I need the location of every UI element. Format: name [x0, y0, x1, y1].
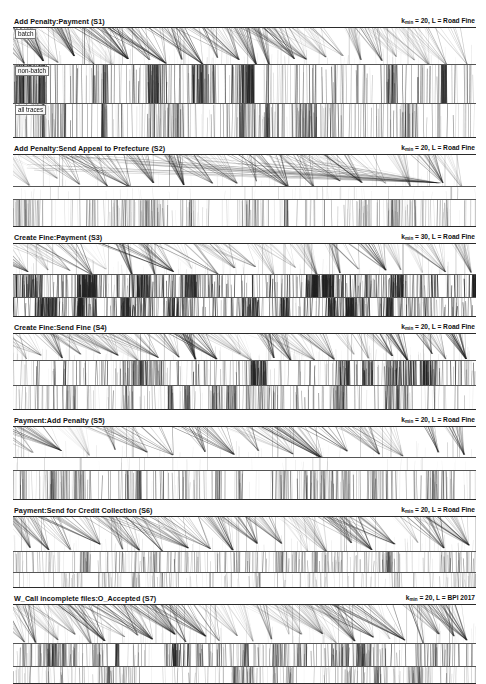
- annotation-subscript: min: [405, 419, 413, 424]
- panel-header: Add Penalty:Send Appeal to Prefecture (S…: [13, 141, 476, 155]
- band-batch: [13, 334, 476, 360]
- panel-annotation: kmin = 20, L = Road Fine: [401, 322, 475, 332]
- annotation-value: = 20, L = Road Fine: [413, 416, 475, 423]
- band-all-traces: [13, 297, 476, 316]
- panel-s6: Payment:Send for Credit Collection (S6)k…: [13, 503, 476, 588]
- band-label: all traces: [15, 105, 46, 115]
- band-group: [13, 155, 476, 227]
- band-plot-canvas: [13, 275, 476, 297]
- panel-s4: Create Fine:Send Fine (S4)kmin = 20, L =…: [13, 320, 476, 410]
- band-plot-canvas: [13, 200, 476, 226]
- band-non-batch: [13, 274, 476, 297]
- band-plot-canvas: [13, 187, 476, 199]
- panel-stack: Add Penalty:Payment (S1)kmin = 20, L = R…: [13, 14, 476, 684]
- band-plot-canvas: [13, 471, 476, 499]
- band-plot-canvas: [13, 244, 476, 274]
- panel-annotation: kmin = 20, L = Road Fine: [401, 16, 475, 26]
- annotation-value: = 30, L = Road Fine: [413, 233, 475, 240]
- panel-title: Payment:Add Penalty (S5): [14, 416, 105, 425]
- panel-header: Add Penalty:Payment (S1)kmin = 20, L = R…: [13, 14, 476, 28]
- band-group: [13, 244, 476, 317]
- band-plot-canvas: [13, 517, 476, 551]
- band-batch: [13, 427, 476, 457]
- band-all-traces: [13, 199, 476, 226]
- band-plot-canvas: [13, 361, 476, 385]
- band-non-batch: non-batch: [13, 64, 476, 103]
- band-plot-canvas: [13, 552, 476, 572]
- band-all-traces: [13, 385, 476, 409]
- panel-header: Payment:Add Penalty (S5)kmin = 20, L = R…: [13, 413, 476, 427]
- band-batch: [13, 244, 476, 274]
- panel-header: Create Fine:Send Fine (S4)kmin = 20, L =…: [13, 320, 476, 334]
- panel-annotation: kmin = 20, L = Road Fine: [401, 415, 475, 425]
- band-all-traces: [13, 572, 476, 587]
- band-group: [13, 605, 476, 684]
- band-non-batch: [13, 457, 476, 470]
- annotation-value: = 20, L = Road Fine: [413, 144, 475, 151]
- panel-annotation: kmin = 30, L = Road Fine: [401, 232, 475, 242]
- panel-s3: Create Fine:Payment (S3)kmin = 30, L = R…: [13, 230, 476, 317]
- band-plot-canvas: [13, 65, 476, 103]
- band-plot-canvas: [13, 667, 476, 683]
- annotation-value: = 20, L = Road Fine: [413, 506, 475, 513]
- band-group: [13, 517, 476, 588]
- band-plot-canvas: [13, 334, 476, 360]
- panel-s7: W_Call incomplete files:O_Accepted (S7)k…: [13, 591, 476, 684]
- annotation-subscript: min: [405, 326, 413, 331]
- panel-title: Add Penalty:Send Appeal to Prefecture (S…: [14, 144, 165, 153]
- band-plot-canvas: [13, 573, 476, 587]
- annotation-subscript: min: [409, 597, 417, 602]
- band-group: [13, 334, 476, 410]
- annotation-value: = 20, L = Road Fine: [413, 323, 475, 330]
- panel-title: Create Fine:Send Fine (S4): [14, 323, 107, 332]
- band-batch: [13, 517, 476, 551]
- band-all-traces: all traces: [13, 103, 476, 137]
- panel-s5: Payment:Add Penalty (S5)kmin = 20, L = R…: [13, 413, 476, 500]
- panel-annotation: kmin = 20, L = Road Fine: [401, 143, 475, 153]
- band-non-batch: [13, 186, 476, 199]
- panel-header: W_Call incomplete files:O_Accepted (S7)k…: [13, 591, 476, 605]
- band-batch: batch: [13, 28, 476, 64]
- band-all-traces: [13, 470, 476, 499]
- band-non-batch: [13, 360, 476, 385]
- band-batch: [13, 605, 476, 643]
- panel-title: Add Penalty:Payment (S1): [14, 17, 105, 26]
- band-plot-canvas: [13, 386, 476, 409]
- band-plot-canvas: [13, 104, 476, 137]
- band-plot-canvas: [13, 155, 476, 186]
- panel-s2: Add Penalty:Send Appeal to Prefecture (S…: [13, 141, 476, 227]
- panel-s1: Add Penalty:Payment (S1)kmin = 20, L = R…: [13, 14, 476, 138]
- panel-annotation: kmin = 20, L = Road Fine: [401, 505, 475, 515]
- band-plot-canvas: [13, 605, 476, 643]
- band-all-traces: [13, 666, 476, 683]
- annotation-subscript: min: [405, 509, 413, 514]
- panel-header: Create Fine:Payment (S3)kmin = 30, L = R…: [13, 230, 476, 244]
- annotation-value: = 20, L = BPI 2017: [418, 594, 475, 601]
- band-group: batchnon-batchall traces: [13, 28, 476, 138]
- panel-annotation: kmin = 20, L = BPI 2017: [406, 593, 475, 603]
- band-batch: [13, 155, 476, 186]
- band-non-batch: [13, 643, 476, 666]
- band-non-batch: [13, 551, 476, 572]
- band-label: non-batch: [15, 66, 49, 76]
- band-label: batch: [15, 29, 36, 39]
- panel-title: Payment:Send for Credit Collection (S6): [14, 506, 153, 515]
- annotation-subscript: min: [405, 20, 413, 25]
- band-plot-canvas: [13, 28, 476, 64]
- band-plot-canvas: [13, 458, 476, 470]
- annotation-subscript: min: [405, 236, 413, 241]
- band-plot-canvas: [13, 298, 476, 316]
- band-plot-canvas: [13, 427, 476, 457]
- band-group: [13, 427, 476, 500]
- panel-title: W_Call incomplete files:O_Accepted (S7): [14, 594, 156, 603]
- band-plot-canvas: [13, 644, 476, 666]
- panel-header: Payment:Send for Credit Collection (S6)k…: [13, 503, 476, 517]
- annotation-value: = 20, L = Road Fine: [413, 17, 475, 24]
- annotation-subscript: min: [405, 147, 413, 152]
- panel-title: Create Fine:Payment (S3): [14, 233, 102, 242]
